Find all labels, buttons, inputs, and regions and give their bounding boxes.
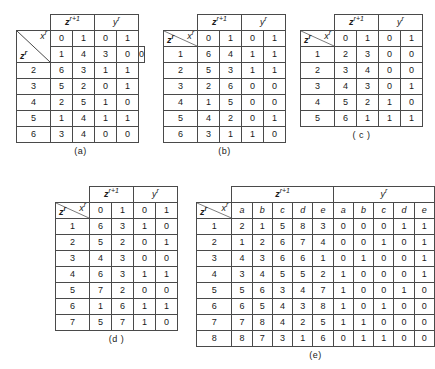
table-d-next-state-group-header: zr+1 xyxy=(90,187,134,203)
cell-out-a: 0 xyxy=(333,235,353,251)
cell-out-0: 1 xyxy=(95,95,117,111)
cell-next-0: 6 xyxy=(90,267,112,283)
cell-next-0: 6 xyxy=(335,111,357,127)
cell-next-0: 5 xyxy=(90,315,112,331)
cell-out-1: 0 xyxy=(401,47,423,63)
cell-out-0: 0 xyxy=(379,79,401,95)
table-c-output-col-0: 0 xyxy=(379,31,401,47)
table-row: 57200 xyxy=(56,283,178,299)
cell-next-e: 4 xyxy=(313,235,333,251)
table-d-group-header-row: zr+1 yr xyxy=(56,187,178,203)
cell-next-a: 1 xyxy=(232,235,252,251)
table-a-group-header-row: zr+1 yr xyxy=(17,15,145,31)
state-table-b: zr+1 yr xr zr 0 1 0 1 16411 25311 32600 … xyxy=(163,14,286,156)
row-state: 6 xyxy=(56,299,90,315)
row-state: 5 xyxy=(164,111,198,127)
cell-out-e: 0 xyxy=(414,283,434,299)
table-e-caption: (e) xyxy=(196,350,435,360)
cell-next-0: 2 xyxy=(335,47,357,63)
cell-next-1: 3 xyxy=(112,219,134,235)
table-a-input-axis-label: xr xyxy=(40,32,47,41)
table-row: 63110 xyxy=(164,127,286,143)
row-state: 2 xyxy=(56,235,90,251)
cell-next-e: 7 xyxy=(313,283,333,299)
cell-out-e: 1 xyxy=(414,267,434,283)
cell-out-a: 1 xyxy=(333,315,353,331)
table-e-input-col-b: b xyxy=(252,203,272,219)
cell-out-0: 1 xyxy=(379,95,401,111)
cell-next-d: 3 xyxy=(293,299,313,315)
table-d-output-col-1: 1 xyxy=(156,203,178,219)
table-e-output-col-c: c xyxy=(374,203,394,219)
cell-next-0: 6 xyxy=(51,63,73,79)
cell-out-a: 0 xyxy=(333,251,353,267)
cell-out-1: 1 xyxy=(401,111,423,127)
table-b-next-state-group-header: zr+1 xyxy=(198,15,242,31)
table-row: 21267400101 xyxy=(197,235,435,251)
cell-out-b: 0 xyxy=(353,283,373,299)
cell-out-d: 0 xyxy=(394,315,414,331)
cell-out-0: 1 xyxy=(242,47,264,63)
cell-out-e: 1 xyxy=(414,251,434,267)
cell-next-d: 1 xyxy=(293,331,313,347)
cell-next-1: 3 xyxy=(112,267,134,283)
table-row: 34366101001 xyxy=(197,251,435,267)
cell-out-0: 0 xyxy=(134,235,156,251)
cell-next-1: 2 xyxy=(112,283,134,299)
cell-next-a: 4 xyxy=(232,251,252,267)
cell-out-1: 0 xyxy=(264,127,286,143)
cell-next-a: 3 xyxy=(232,267,252,283)
cell-out-0: 0 xyxy=(134,251,156,267)
cell-next-e: 8 xyxy=(313,299,333,315)
table-row: 42510 xyxy=(17,95,145,111)
row-state: 1 xyxy=(301,47,335,63)
table-d-input-header-row: xr zr 0 1 0 1 xyxy=(56,203,178,219)
cell-next-1: 1 xyxy=(357,111,379,127)
table-a-input-col-1: 1 xyxy=(73,31,95,47)
cell-next-0: 4 xyxy=(198,111,220,127)
cell-next-a: 6 xyxy=(232,299,252,315)
cell-out-0: 1 xyxy=(242,63,264,79)
cell-next-0: 5 xyxy=(51,79,73,95)
cell-next-d: 5 xyxy=(293,267,313,283)
table-a-caption: (a) xyxy=(16,146,145,156)
cell-out-0: 1 xyxy=(134,219,156,235)
cell-next-1: 4 xyxy=(73,127,95,143)
table-a-input-col-0: 0 xyxy=(51,31,73,47)
table-row: 56111 xyxy=(301,111,423,127)
table-c-output-group-header: yr xyxy=(379,15,423,31)
cell-next-1: 3 xyxy=(357,79,379,95)
cell-out-0: 0 xyxy=(95,127,117,143)
cell-next-b: 2 xyxy=(252,235,272,251)
cell-out-1: 1 xyxy=(117,111,139,127)
cell-next-1: 6 xyxy=(112,299,134,315)
table-row: 35201 xyxy=(17,79,145,95)
cell-next-d: 7 xyxy=(293,235,313,251)
cell-out-d: 0 xyxy=(394,251,414,267)
cell-next-0: 4 xyxy=(335,79,357,95)
table-b-axis-corner-cell: xr zr xyxy=(164,31,198,47)
cell-out-0: 1 xyxy=(134,299,156,315)
table-a-next-state-group-header: zr+1 xyxy=(51,15,95,31)
table-b-state-axis-label: zr xyxy=(167,36,174,45)
cell-out-e: 1 xyxy=(414,219,434,235)
table-row: 26311 xyxy=(17,63,145,79)
table-e-output-col-d: d xyxy=(394,203,414,219)
table-row: 32600 xyxy=(164,79,286,95)
table-a-output-col-1: 1 xyxy=(117,31,139,47)
cell-out-1: 1 xyxy=(264,47,286,63)
cell-next-b: 8 xyxy=(252,315,272,331)
cell-out-1: 0 xyxy=(156,219,178,235)
cell-out-1: 0 xyxy=(117,127,139,143)
table-e-input-col-e: e xyxy=(313,203,333,219)
cell-out-e: 1 xyxy=(414,235,434,251)
cell-out-d: 0 xyxy=(394,235,414,251)
table-row: 12158300011 xyxy=(197,219,435,235)
cell-out-c: 1 xyxy=(374,299,394,315)
cell-out-1: 0 xyxy=(264,79,286,95)
table-e: zr+1 yr xr zr a b c d e a b c d xyxy=(196,186,435,347)
table-b-output-col-1: 1 xyxy=(264,31,286,47)
table-e-output-col-a: a xyxy=(333,203,353,219)
table-d-output-col-0: 0 xyxy=(134,203,156,219)
cell-out-0: 0 xyxy=(242,79,264,95)
